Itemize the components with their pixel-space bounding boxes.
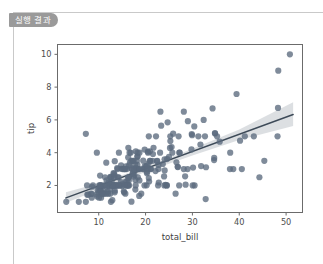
scatter-point [146,178,152,184]
scatter-point [116,150,122,156]
scatter-point [166,154,172,160]
scatter-point [203,196,209,202]
x-axis-title: total_bill [162,232,199,242]
scatter-point [177,150,183,156]
scatter-point [136,193,142,199]
scatter-point [158,123,164,129]
scatter-point [242,133,248,139]
scatter-point [203,164,209,170]
scatter-point [136,150,142,156]
scatter-point [132,186,138,192]
x-tick-label: 50 [281,217,291,227]
matplotlib-figure: 1020304050 246810 total_bill tip [14,13,314,258]
scatter-point [152,168,158,174]
scatter-point [112,189,118,195]
scatter-point [275,105,281,111]
scatter-point [108,199,114,205]
scatter-point [128,199,134,205]
scatter-point [233,91,239,97]
scatter-point [191,123,197,129]
regplot-svg: 1020304050 246810 total_bill tip [14,13,314,258]
scatter-point [96,195,102,201]
x-tick-label: 10 [94,217,104,227]
scatter-point [230,166,236,172]
scatter-point [176,182,182,188]
scatter-point [209,105,215,111]
scatter-point [212,130,218,136]
scatter-point [162,167,168,173]
scatter-point [121,182,127,188]
scatter-point [63,199,69,205]
scatter-point [145,150,151,156]
scatter-point [131,166,137,172]
x-tick-label: 20 [140,217,150,227]
scatter-point [96,182,102,188]
scatter-point [106,179,112,185]
execution-result-tab[interactable]: 실행 결과 [9,13,58,27]
scatter-point [201,117,207,123]
scatter-point [181,166,187,172]
scatter-point [185,118,191,124]
scatter-point [157,109,163,115]
y-tick-label: 8 [46,82,51,92]
scatter-point [195,133,201,139]
scatter-point [275,68,281,74]
scatter-point [239,166,245,172]
y-tick-label: 6 [46,115,51,125]
scatter-point [256,174,262,180]
scatter-point [125,174,131,180]
scatter-point [287,51,293,57]
scatter-point [251,133,257,139]
scatter-point [197,141,203,147]
scatter-point [126,150,132,156]
scatter-point [190,182,196,188]
scatter-point [153,133,159,139]
scatter-point [227,150,233,156]
y-tick-label: 2 [46,180,51,190]
scatter-point [173,159,179,165]
scatter-point [173,191,179,197]
scatter-point [189,131,195,137]
scatter-point [190,164,196,170]
scatter-point [170,131,176,137]
scatter-point [146,133,152,139]
scatter-point [89,184,95,190]
scatter-point [217,139,223,145]
scatter-point [183,182,189,188]
scatter-point [140,158,146,164]
scatter-point [147,158,153,164]
scatter-point [76,199,82,205]
scatter-point [161,182,167,188]
x-tick-label: 40 [234,217,244,227]
x-tick-label: 30 [187,217,197,227]
y-tick-label: 4 [46,148,51,158]
scatter-point [261,158,267,164]
scatter-point [112,158,118,164]
scatter-point [161,173,167,179]
scatter-point [175,133,181,139]
scatter-point [182,173,188,179]
scatter-point [145,166,151,172]
scatter-point [94,150,100,156]
scatter-point [83,131,89,137]
scatter-point [83,199,89,205]
scatter-point [122,166,128,172]
scatter-point [155,182,161,188]
scatter-point [103,160,109,166]
scatter-point [111,171,117,177]
y-axis-title: tip [26,123,36,134]
scatter-point [211,155,217,161]
scatter-point [134,158,140,164]
y-tick-label: 10 [41,49,51,59]
scatter-point [137,166,143,172]
scatter-point [165,119,171,125]
scatter-point [181,109,187,115]
scatter-point [202,133,208,139]
scatter-point [85,192,91,198]
scatter-point [188,146,194,152]
scatter-point [157,150,163,156]
scatter-point [122,191,128,197]
scatter-point [136,177,142,183]
scatter-point [274,133,280,139]
scatter-point [237,138,243,144]
